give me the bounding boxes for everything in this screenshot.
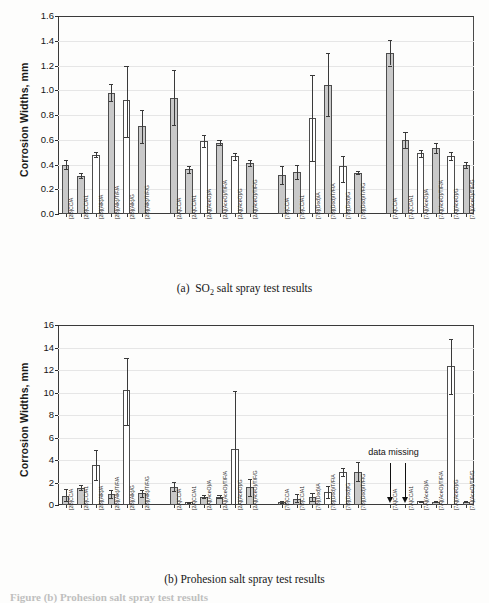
- error-bar-cap: [140, 110, 144, 111]
- x-tick-mark: [250, 214, 251, 217]
- gridline: [58, 140, 474, 141]
- error-bar-line: [343, 468, 344, 476]
- x-tick-label: [7B](Dod)/G: [345, 483, 351, 510]
- y-tick-label: 0: [32, 500, 54, 510]
- x-tick-mark: [436, 505, 437, 508]
- x-tick-mark: [312, 214, 313, 217]
- x-tick-label: [7B](Dod)/T/F/G: [360, 474, 366, 510]
- error-bar-cap: [140, 143, 144, 144]
- error-bar-cap: [341, 476, 345, 477]
- x-tick-label: [7B](Dod)/A: [315, 483, 321, 510]
- x-tick-label: [2A](AceO)/A: [206, 480, 212, 510]
- error-bar-cap: [64, 160, 68, 161]
- x-tick-mark: [111, 505, 112, 508]
- error-bar-cap: [217, 145, 221, 146]
- y-tick-label: 14: [32, 343, 54, 353]
- error-bar-cap: [202, 135, 206, 136]
- error-bar-cap: [295, 179, 299, 180]
- error-bar-line: [451, 339, 452, 394]
- x-tick-label: [2B](Alk)/G: [129, 485, 135, 510]
- data-missing-arrow: [405, 463, 406, 497]
- y-tick-label: 1.2: [32, 61, 54, 71]
- x-tick-label: [2B](Alk)/A: [98, 195, 104, 219]
- y-tick-mark: [55, 325, 59, 326]
- error-bar-cap: [109, 490, 113, 491]
- error-bar-cap: [94, 480, 98, 481]
- error-bar-line: [405, 132, 406, 148]
- x-tick-label: [7B](Dod)/G: [345, 192, 351, 219]
- error-bar-line: [174, 70, 175, 124]
- y-tick-label: 1.0: [32, 85, 54, 95]
- x-tick-label: [7A](AceO)/G: [453, 188, 459, 219]
- y-tick-label: 16: [32, 320, 54, 330]
- error-bar-cap: [310, 161, 314, 162]
- error-bar-cap: [388, 66, 392, 67]
- x-tick-mark: [235, 505, 236, 508]
- y-axis-label-b: Corrosion Widths, mm: [18, 363, 30, 478]
- x-tick-mark: [220, 505, 221, 508]
- error-bar-line: [328, 53, 329, 116]
- error-bar-line: [421, 150, 422, 157]
- chart-panel-prohesion: Corrosion Widths, mm (b) Prohesion salt …: [0, 305, 489, 603]
- x-tick-mark: [235, 214, 236, 217]
- x-tick-mark: [282, 214, 283, 217]
- x-tick-mark: [81, 505, 82, 508]
- error-bar-cap: [64, 169, 68, 170]
- x-tick-mark: [466, 505, 467, 508]
- x-tick-label: [7B](Dod)/T/F/A: [330, 474, 336, 510]
- data-missing-annotation: data missing: [368, 447, 419, 457]
- x-tick-label: [7B]CC/A1: [299, 195, 305, 219]
- gridline: [58, 165, 474, 166]
- bar: [386, 53, 394, 214]
- error-bar-cap: [109, 84, 113, 85]
- error-bar-cap: [202, 147, 206, 148]
- error-bar-cap: [109, 101, 113, 102]
- error-bar-line: [111, 84, 112, 101]
- error-bar-line: [235, 391, 236, 504]
- y-tick-mark: [55, 505, 59, 506]
- subcaption-b: (b) Prohesion salt spray test results: [0, 573, 489, 585]
- gridline: [58, 483, 474, 484]
- error-bar-line: [142, 490, 143, 497]
- x-tick-mark: [405, 214, 406, 217]
- x-tick-label: [7A]CC/A1: [408, 486, 414, 510]
- x-tick-label: [2B](Alk)/T/F/A: [114, 477, 120, 510]
- x-tick-mark: [220, 214, 221, 217]
- error-bar-line: [127, 66, 128, 138]
- gridline: [58, 66, 474, 67]
- x-tick-mark: [421, 214, 422, 217]
- x-tick-label: [2B]CC/A: [68, 489, 74, 510]
- x-tick-mark: [189, 214, 190, 217]
- error-bar-cap: [310, 501, 314, 502]
- error-bar-cap: [449, 339, 453, 340]
- error-bar-cap: [326, 53, 330, 54]
- plot-area-a: [58, 16, 474, 214]
- error-bar-cap: [449, 394, 453, 395]
- x-tick-mark: [328, 505, 329, 508]
- error-bar-line: [204, 135, 205, 146]
- gridline: [58, 415, 474, 416]
- gridline: [58, 41, 474, 42]
- error-bar-line: [111, 490, 112, 498]
- y-tick-label: 2: [32, 478, 54, 488]
- error-bar-cap: [464, 502, 468, 503]
- error-bar-cap: [434, 153, 438, 154]
- error-bar-cap: [295, 165, 299, 166]
- x-tick-label: [2A](AceO)/G: [237, 188, 243, 219]
- error-bar-cap: [280, 184, 284, 185]
- gridline: [58, 348, 474, 349]
- error-bar-line: [312, 493, 313, 501]
- x-tick-label: [2A]CC/A: [176, 489, 182, 510]
- x-tick-label: [7A](AceO)/A: [423, 480, 429, 510]
- x-tick-label: [2B](Alk)/T/F/A: [114, 186, 120, 219]
- error-bar-cap: [356, 171, 360, 172]
- x-tick-label: [7B]CC/A1: [299, 486, 305, 510]
- error-bar-line: [343, 156, 344, 182]
- gridline: [58, 438, 474, 439]
- gridline: [58, 370, 474, 371]
- error-bar-line: [127, 358, 128, 424]
- x-tick-mark: [127, 214, 128, 217]
- error-bar-cap: [172, 125, 176, 126]
- x-tick-label: [2A]CC/A: [176, 198, 182, 219]
- error-bar-cap: [434, 143, 438, 144]
